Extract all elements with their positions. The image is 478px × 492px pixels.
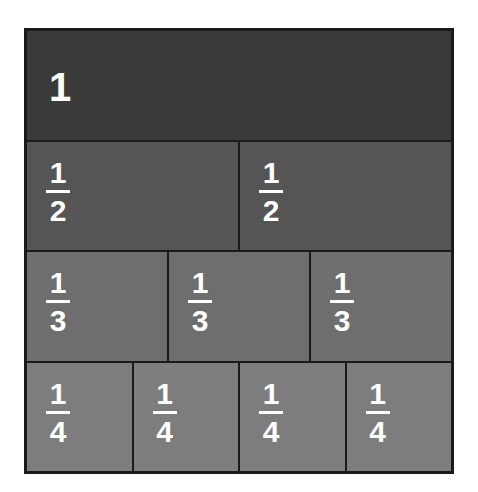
fraction-bar xyxy=(330,300,354,303)
fraction-label: 12 xyxy=(45,158,71,226)
strip-third: 13 xyxy=(311,252,451,361)
denominator: 4 xyxy=(156,417,173,447)
fraction-label: 14 xyxy=(45,379,71,447)
strip-whole: 1 xyxy=(27,31,451,140)
strip-row-thirds: 13 13 13 xyxy=(27,252,451,361)
fraction-bar xyxy=(46,190,70,193)
strip-row-halves: 12 12 xyxy=(27,142,451,251)
strip-quarter: 14 xyxy=(347,363,452,472)
strip-third: 13 xyxy=(169,252,309,361)
fraction-bar xyxy=(188,300,212,303)
fraction-bar xyxy=(46,411,70,414)
numerator: 1 xyxy=(50,268,67,298)
numerator: 1 xyxy=(192,268,209,298)
numerator: 1 xyxy=(156,379,173,409)
denominator: 2 xyxy=(263,196,280,226)
denominator: 4 xyxy=(50,417,67,447)
denominator: 3 xyxy=(50,306,67,336)
fraction-bar xyxy=(366,411,390,414)
strip-half: 12 xyxy=(27,142,238,251)
fraction-label: 13 xyxy=(329,268,355,336)
denominator: 4 xyxy=(369,417,386,447)
fraction-bar xyxy=(46,300,70,303)
numerator: 1 xyxy=(50,379,67,409)
denominator: 2 xyxy=(50,196,67,226)
numerator: 1 xyxy=(263,158,280,188)
fraction-label: 14 xyxy=(258,379,284,447)
strip-quarter: 14 xyxy=(240,363,345,472)
numerator: 1 xyxy=(263,379,280,409)
fraction-bar xyxy=(259,411,283,414)
fraction-label: 12 xyxy=(258,158,284,226)
strip-row-quarters: 14 14 14 14 xyxy=(27,363,451,472)
strip-half: 12 xyxy=(240,142,451,251)
fraction-bar xyxy=(259,190,283,193)
strip-quarter: 14 xyxy=(27,363,132,472)
fraction-label: 13 xyxy=(187,268,213,336)
numerator: 1 xyxy=(50,158,67,188)
numerator: 1 xyxy=(334,268,351,298)
denominator: 4 xyxy=(263,417,280,447)
strip-third: 13 xyxy=(27,252,167,361)
numerator: 1 xyxy=(369,379,386,409)
fraction-label: 13 xyxy=(45,268,71,336)
fraction-label: 14 xyxy=(365,379,391,447)
fraction-strips-board: 1 12 12 13 13 13 14 14 14 14 xyxy=(24,28,454,474)
strip-row-whole: 1 xyxy=(27,31,451,140)
denominator: 3 xyxy=(334,306,351,336)
fraction-bar xyxy=(153,411,177,414)
fraction-label: 14 xyxy=(152,379,178,447)
whole-label: 1 xyxy=(49,67,71,107)
strip-quarter: 14 xyxy=(134,363,239,472)
denominator: 3 xyxy=(192,306,209,336)
